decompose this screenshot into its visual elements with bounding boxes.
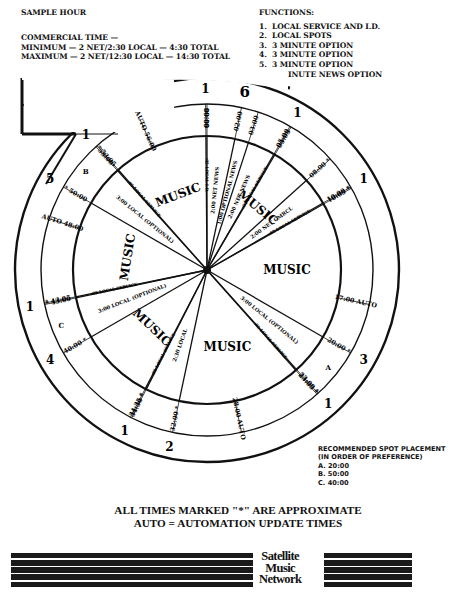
function-number: 4: [46, 353, 54, 367]
segment-label: :05 LOCAL I.D.: [204, 158, 209, 193]
function-number: 1: [82, 128, 90, 142]
function-number: 3: [360, 353, 368, 367]
footer-notes: ALL TIMES MARKED "*" ARE APPROXIMATE AUT…: [0, 504, 476, 530]
recommended-subtitle: (IN ORDER OF PREFERENCE): [318, 453, 445, 461]
time-mark: * 53:05: [95, 144, 118, 169]
segment-labels: :05 LOCAL I.D.2:00 NET NEWS1:00 OPTIONAL…: [90, 158, 311, 377]
function-number: 6: [239, 83, 249, 101]
recommended-item: A. 20:00: [318, 462, 445, 470]
hour-clock-diagram: FUNCTIONS TIME :05 LOCAL I.D.2:00 NET NE…: [0, 0, 476, 500]
time-mark: 03:00: [247, 114, 261, 136]
segment-label: MUSIC: [263, 263, 311, 277]
segment-label: 2:00 NET NEWS: [209, 166, 220, 214]
spot-letter: A: [324, 363, 331, 372]
segment-label: MUSIC: [130, 306, 174, 349]
segment-label: :05 LOCAL SERVICE: [90, 282, 138, 297]
time-mark: 00:00: [203, 107, 211, 128]
auto-note: AUTO = AUTOMATION UPDATE TIMES: [0, 517, 476, 530]
function-number: 5: [46, 172, 54, 186]
segment-label: MUSIC: [153, 180, 202, 210]
recommended-spot-placement: RECOMMENDED SPOT PLACEMENT (IN ORDER OF …: [318, 445, 445, 487]
spot-letter: C: [59, 321, 65, 330]
time-mark: 40:00 *: [62, 335, 89, 355]
spot-letter: B: [83, 167, 89, 176]
segment-label: MUSIC: [204, 340, 252, 354]
function-number: 2: [165, 440, 173, 454]
logo-bars-left: [11, 553, 253, 587]
function-number: 1: [293, 106, 301, 120]
function-number: 1: [201, 82, 209, 96]
function-number: 1: [324, 397, 332, 411]
time-mark: 20:00 *: [326, 336, 353, 356]
recommended-item: B. 50:00: [318, 470, 445, 478]
function-number: 1: [121, 424, 129, 438]
function-number: 1: [26, 300, 34, 314]
segment-spoke: [207, 270, 323, 337]
time-mark: 08:00 *: [308, 156, 333, 180]
recommended-item: C. 40:00: [318, 479, 445, 487]
satellite-music-network-logo: Satellite Music Network: [259, 551, 301, 586]
time-mark: * 50:00: [62, 184, 89, 204]
time-mark: 32:00 *: [168, 405, 181, 432]
logo-bars-right: [324, 553, 412, 587]
function-number: 1: [360, 172, 368, 186]
segment-label: MUSIC: [117, 233, 138, 282]
recommended-title: RECOMMENDED SPOT PLACEMENT: [318, 445, 445, 453]
time-mark: 02:00: [232, 110, 244, 132]
approximate-note: ALL TIMES MARKED "*" ARE APPROXIMATE: [0, 504, 476, 517]
segment-spoke: [91, 203, 207, 270]
clock-hub: [203, 266, 211, 274]
